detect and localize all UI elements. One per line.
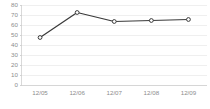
y-axis-tick-label: 10 [11, 71, 18, 78]
gridlines [22, 6, 208, 86]
y-axis-tick-label: 20 [11, 61, 18, 68]
y-axis-tick-label: 80 [11, 1, 18, 8]
data-point-marker [38, 36, 42, 40]
data-point-marker [149, 19, 153, 23]
x-axis-tick-label: 12/07 [107, 89, 123, 96]
y-axis-tick-label: 70 [11, 11, 18, 18]
y-axis-tick-label: 30 [11, 51, 18, 58]
x-axis-tick-label: 12/06 [69, 89, 85, 96]
axes [20, 5, 208, 86]
y-axis-tick-label: 0 [15, 81, 19, 88]
y-axis-tick-label: 40 [11, 41, 18, 48]
series-line [40, 13, 188, 38]
x-axis-tick-label: 12/08 [144, 89, 160, 96]
data-series [40, 13, 188, 38]
line-chart: 01020304050607080 12/0512/0612/0712/0812… [0, 0, 210, 109]
data-point-marker [75, 11, 79, 15]
data-point-markers [38, 11, 190, 40]
x-axis-tick-labels: 12/0512/0612/0712/0812/09 [32, 89, 196, 96]
y-axis-tick-labels: 01020304050607080 [11, 1, 18, 88]
chart-plot-area: 01020304050607080 12/0512/0612/0712/0812… [0, 0, 210, 109]
data-point-marker [112, 20, 116, 24]
x-axis-tick-label: 12/05 [32, 89, 48, 96]
x-axis-tick-label: 12/09 [181, 89, 197, 96]
y-axis-tick-label: 50 [11, 31, 18, 38]
data-point-marker [187, 18, 191, 22]
y-axis-tick-label: 60 [11, 21, 18, 28]
